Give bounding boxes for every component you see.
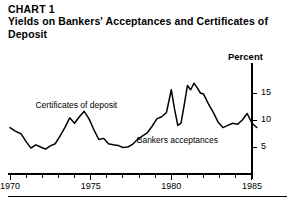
x-axis-tick-label: 1975: [81, 181, 101, 191]
chart-page: CHART 1 Yields on Bankers' Acceptances a…: [0, 0, 295, 205]
x-axis-tick-label: 1985: [242, 181, 262, 191]
y-axis-unit-label: Percent: [228, 51, 263, 62]
x-axis-ticks: [10, 174, 252, 180]
x-axis-tick-label: 1970: [0, 181, 20, 191]
x-axis-tick-label: 1980: [161, 181, 181, 191]
y-axis-tick-label: 5: [261, 141, 266, 151]
series-label-bankers-acceptances: Bankers acceptances: [137, 135, 218, 145]
series-label-certificates-of-deposit: Certificates of deposit: [35, 100, 117, 110]
yield-series-line: [10, 83, 257, 149]
y-axis-tick-label: 15: [261, 87, 271, 97]
y-axis-tick-label: 10: [261, 114, 271, 124]
axes-group: [8, 63, 257, 180]
